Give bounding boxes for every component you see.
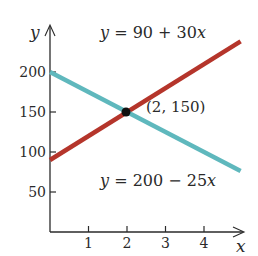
x-tick-label-3: 3: [161, 235, 170, 251]
line-teal-200-minus-25x: [50, 72, 241, 171]
x-tick-label-1: 1: [84, 235, 93, 251]
equation-label-teal: y = 200 − 25x: [99, 171, 216, 190]
x-ticks: [89, 226, 205, 232]
x-tick-label-4: 4: [200, 235, 209, 251]
x-axis-label: x: [236, 236, 246, 256]
chart: 50 100 150 200 1 2 3 4 x y (2, 150) y = …: [0, 0, 258, 256]
y-tick-label-50: 50: [28, 184, 46, 200]
y-axis-label: y: [29, 22, 40, 42]
y-tick-label-200: 200: [19, 64, 46, 80]
y-ticks: [50, 72, 56, 192]
intersection-label: (2, 150): [146, 98, 205, 116]
equation-label-red: y = 90 + 30x: [99, 23, 206, 42]
y-tick-label-150: 150: [19, 104, 46, 120]
y-tick-label-100: 100: [19, 144, 46, 160]
x-tick-label-2: 2: [123, 235, 132, 251]
intersection-point: [122, 108, 131, 117]
